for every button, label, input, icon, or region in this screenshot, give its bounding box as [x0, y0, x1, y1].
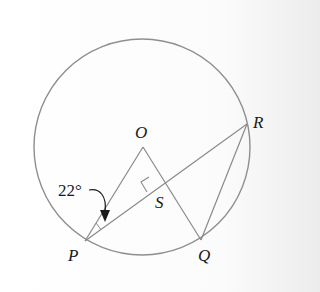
segment-op [85, 147, 143, 241]
right-angle-mark [141, 177, 149, 192]
chord-qr [201, 124, 247, 240]
angle-arrow [89, 190, 105, 212]
label-r: R [253, 114, 263, 131]
diagram-canvas [0, 0, 299, 292]
arrow-head-icon [100, 210, 110, 222]
label-s: S [155, 194, 164, 211]
label-o: O [135, 124, 147, 141]
angle-label-22: 22° [58, 182, 82, 199]
angle-arc-p [96, 223, 101, 230]
label-q: Q [198, 247, 210, 264]
geometry-diagram: O R S P Q 22° [0, 0, 299, 292]
label-p: P [68, 247, 78, 264]
circle [34, 39, 250, 255]
chord-pr [85, 124, 247, 241]
